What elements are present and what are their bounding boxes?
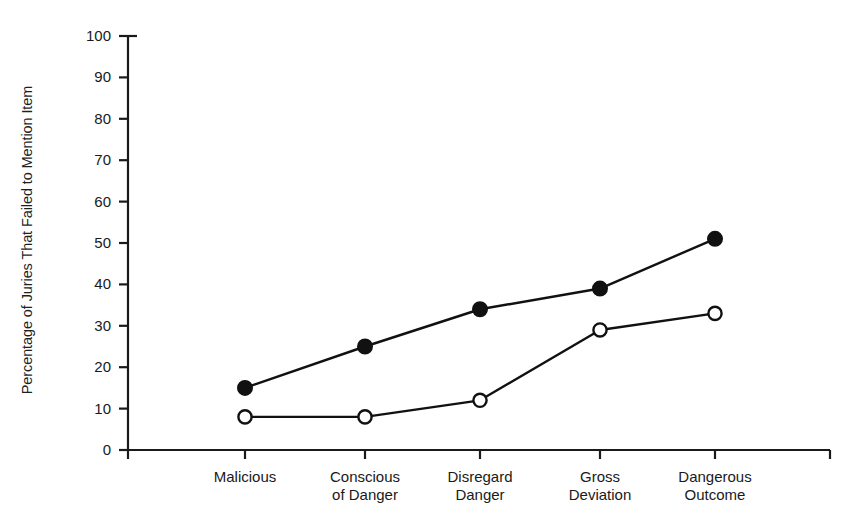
data-point-filled-circle-series-4[interactable] [708, 232, 722, 246]
data-point-filled-circle-series-0[interactable] [238, 381, 252, 395]
y-axis-tick-label: 50 [65, 235, 111, 250]
y-axis-tick-label: 60 [65, 194, 111, 209]
x-axis-tick-label: Dangerous Outcome [650, 468, 780, 505]
x-axis-tick-label: Disregard Danger [415, 468, 545, 505]
y-axis-tick-label: 90 [65, 69, 111, 84]
data-point-filled-circle-series-2[interactable] [473, 302, 487, 316]
y-axis-tick-label: 0 [65, 442, 111, 457]
x-axis-tick-label: Gross Deviation [535, 468, 665, 505]
data-point-open-circle-series-1[interactable] [358, 410, 371, 423]
chart-figure: Percentage of Juries That Failed to Ment… [0, 0, 856, 523]
line-chart-plot [0, 0, 856, 523]
data-point-filled-circle-series-3[interactable] [593, 281, 607, 295]
y-axis-tick-label: 40 [65, 276, 111, 291]
y-axis-tick-label: 80 [65, 111, 111, 126]
y-axis-tick-label: 30 [65, 318, 111, 333]
data-point-filled-circle-series-1[interactable] [358, 339, 372, 353]
data-point-open-circle-series-2[interactable] [473, 394, 486, 407]
data-point-open-circle-series-0[interactable] [238, 410, 251, 423]
y-axis-tick-label: 10 [65, 401, 111, 416]
y-axis-tick-label: 20 [65, 359, 111, 374]
data-point-open-circle-series-4[interactable] [708, 307, 721, 320]
x-axis-tick-label: Conscious of Danger [300, 468, 430, 505]
data-point-open-circle-series-3[interactable] [593, 323, 606, 336]
y-axis-tick-label: 70 [65, 152, 111, 167]
y-axis-tick-label: 100 [65, 28, 111, 43]
x-axis-tick-label: Malicious [180, 468, 310, 486]
